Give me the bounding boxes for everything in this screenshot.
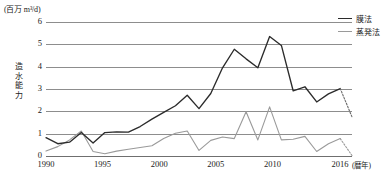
y-tick-6: 6: [24, 16, 42, 26]
y-tick-2: 2: [24, 105, 42, 115]
legend-swatch-membrane-icon: [338, 18, 352, 19]
x-tick-2005: 2005: [207, 159, 224, 169]
x-tick-1995: 1995: [94, 159, 111, 169]
y-tick-3: 3: [24, 83, 42, 93]
y-tick-1: 1: [24, 128, 42, 138]
legend-swatch-evaporation-icon: [338, 31, 352, 32]
legend-label-membrane: 膜法: [356, 13, 372, 24]
line-membrane: [46, 37, 340, 144]
y-axis-unit-label: (百万 m³/d): [4, 3, 40, 14]
line-membrane-dashed-tail: [340, 89, 352, 117]
legend: 膜法 蒸発法: [338, 12, 390, 38]
y-axis-ticks: 0 1 2 3 4 5 6: [24, 22, 42, 156]
line-evaporation: [46, 107, 340, 154]
series-lines: [46, 22, 352, 156]
chart-root: (百万 m³/d) 造 水 能 力 0 1 2 3 4 5 6 1990 199…: [0, 0, 392, 181]
y-tick-5: 5: [24, 38, 42, 48]
x-tick-2000: 2000: [151, 159, 168, 169]
plot-area: [46, 22, 352, 156]
y-tick-4: 4: [24, 61, 42, 71]
x-axis-unit-label: (暦年): [352, 159, 371, 170]
x-tick-2010: 2010: [264, 159, 281, 169]
legend-item-membrane[interactable]: 膜法: [338, 12, 390, 25]
x-tick-2016: 2016: [332, 159, 349, 169]
x-tick-1990: 1990: [38, 159, 55, 169]
legend-label-evaporation: 蒸発法: [356, 26, 379, 37]
axis-baseline: [46, 156, 352, 157]
legend-item-evaporation[interactable]: 蒸発法: [338, 25, 390, 38]
line-evaporation-dashed-tail: [340, 139, 352, 156]
